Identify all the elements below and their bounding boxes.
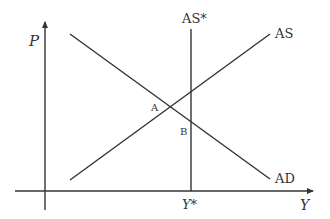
point-a-label: A	[151, 103, 158, 113]
y-star-tick-label: Y*	[182, 198, 197, 211]
as-star-label: AS*	[182, 12, 207, 25]
x-axis-label: Y	[300, 198, 309, 212]
y-axis-label: P	[29, 34, 39, 49]
ad-label: AD	[275, 172, 295, 185]
point-b-label: B	[180, 127, 187, 137]
as-label: AS	[275, 27, 293, 40]
ad-as-diagram: P Y Y* AS* AS AD A B	[0, 0, 330, 219]
